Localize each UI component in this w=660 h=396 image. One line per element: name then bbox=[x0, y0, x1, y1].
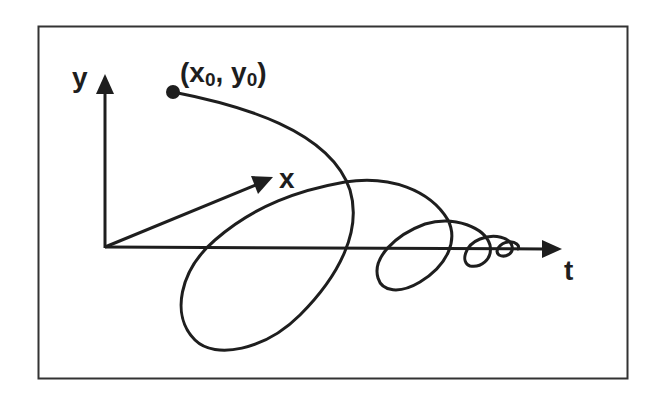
t-axis-label: t bbox=[564, 255, 573, 286]
x-axis-label: x bbox=[279, 163, 295, 194]
start-label-sub-y: 0 bbox=[247, 69, 258, 90]
diagram-frame bbox=[39, 27, 628, 379]
start-label-mid: , y bbox=[215, 57, 247, 88]
start-point-dot bbox=[166, 85, 180, 99]
trajectory-curve bbox=[173, 92, 519, 350]
t-axis-arrowhead-icon bbox=[542, 240, 562, 258]
trajectory-diagram: y x t (x0, y0) bbox=[0, 0, 660, 396]
start-label-open: (x bbox=[180, 57, 205, 88]
y-axis: y bbox=[72, 62, 114, 248]
start-label-sub-x: 0 bbox=[205, 69, 216, 90]
start-point-label: (x0, y0) bbox=[180, 57, 267, 90]
start-label-close: ) bbox=[257, 57, 266, 88]
y-axis-arrowhead-icon bbox=[96, 74, 114, 94]
y-axis-label: y bbox=[72, 62, 88, 93]
x-axis-line bbox=[105, 184, 258, 247]
t-axis-line bbox=[105, 247, 545, 249]
